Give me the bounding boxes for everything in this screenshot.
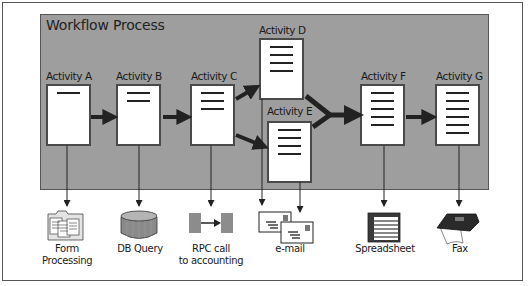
- output-label-line: to accounting: [178, 255, 244, 267]
- output-label-spreadsheet: Spreadsheet: [352, 243, 418, 255]
- output-label-line: e-mail: [262, 243, 318, 255]
- fax-icon: [437, 214, 479, 244]
- output-label-line: Spreadsheet: [352, 243, 418, 255]
- output-label-form-processing: Form Processing: [42, 243, 92, 267]
- flow-arrow-c-e: [236, 135, 263, 146]
- form-folder-icon: [48, 211, 83, 240]
- output-label-line: Form: [42, 243, 92, 255]
- rpc-icon: [189, 213, 233, 233]
- flow-merge-d-e: [306, 96, 330, 127]
- output-label-email: e-mail: [262, 243, 318, 255]
- output-label-line: Fax: [440, 243, 480, 255]
- output-label-fax: Fax: [440, 243, 480, 255]
- database-icon: [121, 211, 157, 239]
- email-icon: [259, 212, 313, 243]
- output-label-line: Processing: [42, 255, 92, 267]
- output-label-line: DB Query: [112, 243, 168, 255]
- flow-arrow-c-d: [236, 88, 255, 99]
- spreadsheet-icon: [368, 213, 400, 242]
- output-label-rpc-call: RPC call to accounting: [178, 243, 244, 267]
- output-label-line: RPC call: [178, 243, 244, 255]
- output-label-db-query: DB Query: [112, 243, 168, 255]
